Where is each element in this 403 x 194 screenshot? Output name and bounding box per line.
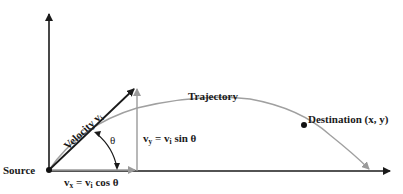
source-label: Source xyxy=(3,164,35,176)
destination-point xyxy=(301,122,307,128)
source-point xyxy=(46,167,52,173)
theta-arc-arrowhead-bottom xyxy=(114,163,120,170)
trajectory-label: Trajectory xyxy=(188,90,238,102)
vx-equation-label: vx = vi cos θ xyxy=(64,176,119,190)
vy-equation-label: vy = vi sin θ xyxy=(143,132,197,146)
destination-label: Destination (x, y) xyxy=(308,113,389,126)
theta-label: θ xyxy=(110,134,115,146)
projectile-diagram: Source Velocity vi θ vy = vi sin θ vx = … xyxy=(0,0,403,194)
